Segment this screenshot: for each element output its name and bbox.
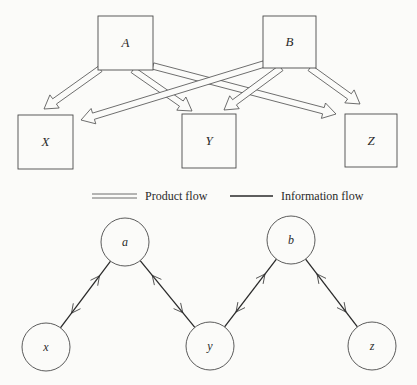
- facility-label: X: [41, 134, 51, 149]
- information-node-a: a: [101, 218, 149, 266]
- product-flow-arrow-b-to-z: [308, 65, 360, 104]
- facility-node-x: X: [18, 115, 73, 169]
- product-flow-arrow-a-to-x: [44, 66, 102, 109]
- diagram-svg: ABXYZ Product flow Information flow abxy…: [0, 0, 417, 385]
- node-label: z: [369, 339, 375, 353]
- facility-node-y: Y: [182, 114, 236, 168]
- node-label: a: [122, 235, 128, 249]
- supply-chain-diagram: ABXYZ Product flow Information flow abxy…: [0, 0, 417, 385]
- product-flow-legend-swatch: [92, 194, 137, 198]
- legend: Product flow Information flow: [92, 189, 364, 203]
- facility-node-b: B: [263, 16, 316, 68]
- information-node-x: x: [22, 323, 70, 371]
- facility-label: A: [121, 35, 130, 50]
- information-flow-edges: [60, 259, 357, 328]
- information-node-z: z: [348, 322, 396, 370]
- information-flow-y-b: [225, 259, 277, 327]
- information-nodes: abxyz: [22, 216, 396, 371]
- node-label: b: [288, 233, 294, 247]
- information-flow-a-y: [140, 261, 195, 328]
- information-flow-b-z: [306, 259, 358, 327]
- information-node-b: b: [267, 216, 315, 264]
- facility-node-z: Z: [345, 114, 397, 167]
- information-flow-x-a: [60, 261, 110, 328]
- facility-label: B: [286, 34, 294, 49]
- product-flow-legend-label: Product flow: [145, 189, 208, 203]
- node-label: x: [42, 340, 49, 354]
- facility-node-a: A: [98, 16, 153, 70]
- information-node-y: y: [186, 322, 234, 370]
- node-label: y: [206, 339, 213, 353]
- information-flow-legend-label: Information flow: [281, 189, 364, 203]
- facility-label: Z: [367, 133, 375, 148]
